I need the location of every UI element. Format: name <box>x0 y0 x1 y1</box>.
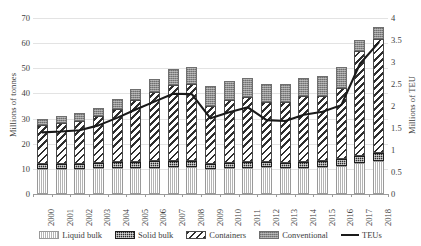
bar-segment-solid-bulk <box>373 153 384 161</box>
bar-segment-containers <box>37 125 48 164</box>
bar-segment-conventional <box>149 79 160 93</box>
y-axis-right-ticks: 00.511.522.533.54 <box>391 0 413 246</box>
y-axis-left-tick-label: 60 <box>22 39 31 48</box>
legend-swatch-icon <box>186 231 206 239</box>
legend-label: Solid bulk <box>138 230 173 240</box>
y-axis-right-tick-label: 3 <box>391 58 395 67</box>
bar-segment-solid-bulk <box>74 164 85 169</box>
bar-segment-solid-bulk <box>261 162 272 168</box>
bar-segment-liquid-bulk <box>354 163 365 194</box>
bar-segment-containers <box>261 102 272 162</box>
y-axis-left-tick-label: 20 <box>22 140 31 149</box>
legend-item-solid-bulk[interactable]: Solid bulk <box>115 230 173 240</box>
legend-item-conventional[interactable]: Conventional <box>259 230 328 240</box>
x-axis-label-2006: 2006 <box>158 192 168 226</box>
bar-segment-conventional <box>74 113 85 121</box>
x-axis-label-2017: 2017 <box>364 192 374 226</box>
y-axis-right-tick-label: 2.5 <box>391 80 402 89</box>
legend-swatch-icon <box>259 231 279 239</box>
bar-segment-containers <box>317 96 328 161</box>
bar-segment-solid-bulk <box>298 162 309 168</box>
x-axis-label-2004: 2004 <box>121 192 131 226</box>
bar-stack-2006[interactable] <box>149 18 160 194</box>
bar-segment-liquid-bulk <box>317 167 328 194</box>
bar-segment-conventional <box>336 67 347 88</box>
y-axis-right-tick-label: 3.5 <box>391 36 402 45</box>
bar-stack-2005[interactable] <box>130 18 141 194</box>
bar-segment-containers <box>74 121 85 164</box>
x-axis-label-2005: 2005 <box>140 192 150 226</box>
bar-stack-2017[interactable] <box>354 18 365 194</box>
bar-stack-2014[interactable] <box>298 18 309 194</box>
bar-segment-conventional <box>317 76 328 96</box>
bar-segment-containers <box>336 88 347 159</box>
bar-segment-containers <box>168 85 179 162</box>
bar-segment-containers <box>186 84 197 161</box>
x-axis-label-2016: 2016 <box>345 192 355 226</box>
bar-stack-2013[interactable] <box>280 18 291 194</box>
x-axis-label-2000: 2000 <box>46 192 56 226</box>
legend-label: Containers <box>209 230 246 240</box>
x-axis-label-2014: 2014 <box>308 192 318 226</box>
bar-segment-liquid-bulk <box>74 169 85 194</box>
bar-segment-conventional <box>280 84 291 102</box>
x-axis-label-2008: 2008 <box>196 192 206 226</box>
bar-segment-liquid-bulk <box>56 169 67 194</box>
bar-segment-solid-bulk <box>149 161 160 167</box>
chart-legend: Liquid bulkSolid bulkContainersConventio… <box>0 228 421 242</box>
bar-segment-solid-bulk <box>205 164 216 169</box>
bar-segment-solid-bulk <box>186 161 197 167</box>
legend-item-teus[interactable]: TEUs <box>341 230 382 240</box>
x-axis: 2000200120022003200420052006200720082009… <box>33 194 388 228</box>
bar-stack-2002[interactable] <box>74 18 85 194</box>
x-axis-label-2011: 2011 <box>252 192 262 226</box>
bar-segment-liquid-bulk <box>261 167 272 194</box>
y-axis-left-tick-label: 70 <box>22 14 31 23</box>
x-axis-label-2013: 2013 <box>289 192 299 226</box>
y-axis-right-tick-label: 0.5 <box>391 168 402 177</box>
bar-stack-2000[interactable] <box>37 18 48 194</box>
bar-stack-2009[interactable] <box>205 18 216 194</box>
y-axis-right-tick-label: 1.5 <box>391 124 402 133</box>
plot-area <box>33 18 388 194</box>
bar-segment-solid-bulk <box>242 162 253 168</box>
bar-segment-liquid-bulk <box>298 168 309 194</box>
legend-item-containers[interactable]: Containers <box>186 230 246 240</box>
bar-stack-2004[interactable] <box>112 18 123 194</box>
bar-stack-2015[interactable] <box>317 18 328 194</box>
x-axis-label-2007: 2007 <box>177 192 187 226</box>
bar-segment-solid-bulk <box>336 159 347 166</box>
bar-stack-2016[interactable] <box>336 18 347 194</box>
bar-segment-solid-bulk <box>37 164 48 169</box>
bar-segment-containers <box>280 102 291 162</box>
x-axis-tick <box>33 194 34 197</box>
x-axis-label-2009: 2009 <box>215 192 225 226</box>
bar-stack-2011[interactable] <box>242 18 253 194</box>
x-axis-label-2015: 2015 <box>327 192 337 226</box>
y-axis-right-tick-label: 4 <box>391 14 395 23</box>
bar-stack-2007[interactable] <box>168 18 179 194</box>
bar-segment-containers <box>149 92 160 161</box>
bar-segment-liquid-bulk <box>37 169 48 194</box>
bar-segment-solid-bulk <box>280 163 291 168</box>
bar-stack-2008[interactable] <box>186 18 197 194</box>
bar-segment-liquid-bulk <box>93 168 104 194</box>
bar-segment-conventional <box>354 40 365 51</box>
legend-item-liquid-bulk[interactable]: Liquid bulk <box>39 230 102 240</box>
y-axis-right-tick-label: 1 <box>391 146 395 155</box>
bar-segment-liquid-bulk <box>242 168 253 194</box>
bar-segment-liquid-bulk <box>186 167 197 194</box>
bar-stack-2001[interactable] <box>56 18 67 194</box>
bar-stack-2018[interactable] <box>373 18 384 194</box>
legend-label: Conventional <box>282 230 328 240</box>
bar-segment-conventional <box>37 119 48 125</box>
x-axis-label-2002: 2002 <box>84 192 94 226</box>
bar-stack-2010[interactable] <box>224 18 235 194</box>
chart-container: Millions of tonnes Millions of TEU 01020… <box>0 0 421 246</box>
bar-stack-2012[interactable] <box>261 18 272 194</box>
bar-segment-solid-bulk <box>317 161 328 167</box>
bar-stack-2003[interactable] <box>93 18 104 194</box>
bar-segment-liquid-bulk <box>280 168 291 194</box>
bar-segment-liquid-bulk <box>112 168 123 194</box>
legend-swatch-icon <box>115 231 135 239</box>
